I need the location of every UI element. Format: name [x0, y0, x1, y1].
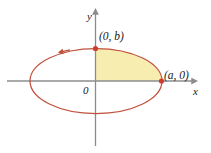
origin-label: 0 [83, 85, 89, 96]
x-axis-label: x [193, 86, 198, 97]
top-vertex-label: (0, b) [99, 31, 124, 43]
shaded-quarter-ellipse-region [96, 49, 162, 82]
y-axis-label: y [87, 11, 92, 22]
right-vertex-label: (a, 0) [164, 70, 189, 82]
ellipse-figure: y x 0 (0, b) (a, 0) [0, 0, 211, 153]
point-top-vertex [93, 46, 98, 51]
